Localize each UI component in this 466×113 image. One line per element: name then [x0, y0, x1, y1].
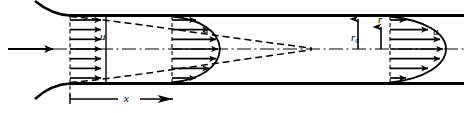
- label-r: r: [378, 14, 382, 25]
- pipe-flow-development-figure: u u u r0 r x: [0, 0, 466, 113]
- label-r-zero: r0: [351, 32, 359, 45]
- label-u-developed: u: [433, 26, 439, 37]
- label-u-inlet: u: [100, 31, 106, 42]
- x-dimension-arrow: [70, 94, 173, 104]
- label-x: x: [124, 93, 129, 104]
- developing-profile: [172, 16, 220, 83]
- label-u-developing: u: [203, 24, 209, 35]
- uniform-inlet-profile: [70, 16, 106, 100]
- diagram-canvas: [0, 0, 466, 113]
